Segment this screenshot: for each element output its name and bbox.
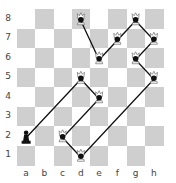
queen-marker-icon <box>150 71 157 83</box>
queen-marker-icon <box>96 91 103 103</box>
queen-marker-icon <box>77 13 84 25</box>
queen-marker-icon <box>59 130 66 142</box>
queen-marker-icon <box>96 52 103 64</box>
king-marker-icon <box>77 149 84 161</box>
path-overlay <box>0 0 176 183</box>
queen-marker-icon <box>132 52 139 64</box>
queen-marker-icon <box>77 71 84 83</box>
queen-marker-icon <box>132 13 139 25</box>
queen-marker-icon <box>150 32 157 44</box>
black-pawn-icon <box>22 130 31 143</box>
path-line <box>26 21 154 158</box>
queen-marker-icon <box>114 32 121 44</box>
